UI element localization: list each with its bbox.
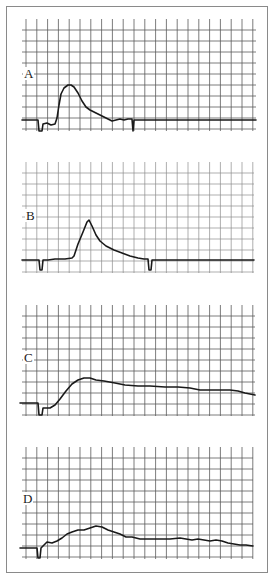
panel-label: A bbox=[24, 66, 34, 81]
trace-line bbox=[20, 526, 253, 558]
panel-label: B bbox=[26, 208, 35, 223]
panel-label: D bbox=[23, 491, 32, 506]
grid bbox=[22, 162, 254, 273]
panel-label: C bbox=[24, 350, 33, 365]
panel-b: B bbox=[22, 162, 254, 273]
grid bbox=[22, 305, 255, 416]
trace-line bbox=[22, 85, 256, 131]
panel-d: D bbox=[20, 447, 253, 559]
grid bbox=[22, 447, 253, 559]
trace-line bbox=[22, 220, 254, 270]
trace-line bbox=[20, 378, 255, 415]
panel-a: A bbox=[22, 19, 256, 131]
panel-c: C bbox=[20, 305, 255, 416]
figure-canvas: ABCD bbox=[0, 0, 273, 580]
